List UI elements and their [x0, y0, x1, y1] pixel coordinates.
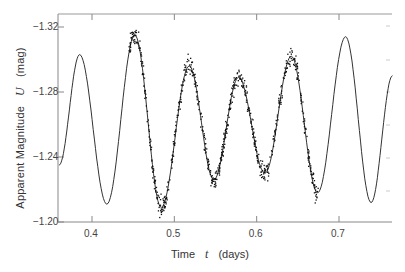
x-axis-name: Time — [171, 248, 195, 260]
y-axis-name: Apparent Magnitude — [14, 106, 26, 209]
x-tick-label: 0.5 — [166, 228, 180, 239]
observation-points — [129, 30, 319, 218]
y-axis-unit: (mag) — [14, 47, 26, 77]
x-tick-label: 0.7 — [331, 228, 345, 239]
x-tick-label: 0.6 — [249, 228, 263, 239]
x-axis-unit: (days) — [218, 248, 249, 260]
x-tick-label: 0.4 — [84, 228, 98, 239]
x-axis-label: Timet(days) — [171, 247, 249, 262]
y-tick-label: −1.28 — [33, 86, 58, 97]
y-tick-label: −1.32 — [33, 21, 58, 32]
right-minor-ticks — [386, 26, 390, 191]
y-tick-label: −1.24 — [33, 151, 58, 162]
axis-ticks — [58, 14, 339, 222]
y-axis-label: Apparent MagnitudeU(mag) — [13, 47, 28, 208]
y-axis-symbol: U — [13, 87, 27, 96]
y-tick-label: −1.20 — [33, 216, 58, 227]
x-axis-symbol: t — [205, 247, 208, 261]
